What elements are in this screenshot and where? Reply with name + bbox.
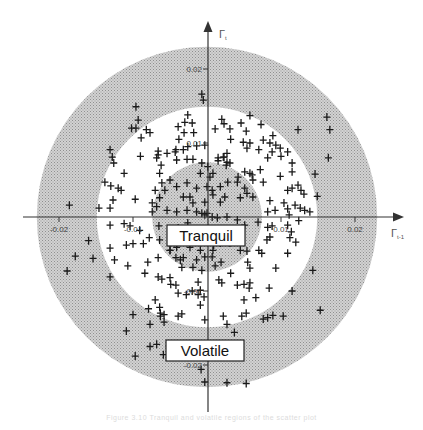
y-tick-label: -0.01 [184, 287, 203, 296]
tranquil-label: Tranquil [179, 227, 233, 244]
y-tick-label: 0.02 [186, 65, 202, 74]
volatile-label: Volatile [181, 342, 229, 359]
x-tick-label: -0.02 [50, 225, 69, 234]
x-tick-label: 0.02 [347, 225, 363, 234]
y-axis-label: Γt [219, 28, 227, 41]
figure-caption: Figure 3.10 Tranquil and volatile region… [0, 414, 423, 421]
x-tick-label: 0.01 [273, 225, 289, 234]
scatter-figure: -0.02-0.010.010.020.020.01-0.01-0.02 Γt … [0, 0, 423, 430]
scatter-plot: -0.02-0.010.010.020.020.01-0.01-0.02 Γt … [0, 0, 423, 430]
x-tick-label: -0.01 [124, 225, 143, 234]
y-tick-label: -0.02 [184, 361, 203, 370]
y-tick-label: 0.01 [186, 139, 202, 148]
y-axis-arrow-icon [204, 21, 213, 32]
x-axis-arrow-icon [393, 213, 404, 222]
x-axis-label: Γt-1 [391, 227, 405, 240]
